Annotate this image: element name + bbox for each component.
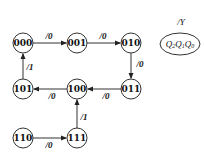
state-000: 000 — [13, 33, 33, 53]
transition-001-010: /0 — [87, 31, 120, 43]
transition-label: /1 — [79, 112, 87, 122]
transition-110-111: /0 — [33, 138, 66, 150]
transition-111-100: /1 — [77, 100, 88, 128]
transition-label: /0 — [98, 31, 107, 41]
legend-state-vars: Q2Q1Q0 — [166, 39, 195, 49]
state-011: 011 — [121, 79, 141, 99]
state-010: 010 — [121, 33, 141, 53]
transition-101-000: /1 — [23, 54, 34, 79]
state-101: 101 — [13, 79, 33, 99]
state-110: 110 — [13, 128, 33, 148]
transition-label: /1 — [25, 62, 33, 72]
state-label: 101 — [14, 84, 33, 94]
transition-011-100: /0 — [88, 89, 121, 101]
legend-output-label: /Y — [176, 17, 186, 27]
state-label: 011 — [122, 84, 141, 94]
state-111: 111 — [67, 128, 87, 148]
state-label: 010 — [122, 38, 141, 48]
transition-000-001: /0 — [33, 31, 66, 43]
state-label: 001 — [68, 38, 87, 48]
legend: /Y Q2Q1Q0 — [160, 17, 200, 55]
state-100: 100 — [67, 79, 87, 99]
transition-label: /0 — [44, 140, 53, 150]
transition-label: /0 — [101, 91, 110, 101]
transition-label: /0 — [135, 59, 144, 69]
state-diagram: /0 /0 /0 /0 /0 /1 /0 /1 000 001 010 — [0, 0, 204, 156]
transition-010-011: /0 — [131, 53, 144, 78]
transition-label: /0 — [44, 31, 53, 41]
transition-label: /0 — [47, 91, 56, 101]
transition-100-101: /0 — [34, 89, 67, 101]
state-label: 110 — [14, 133, 33, 143]
state-001: 001 — [67, 33, 87, 53]
state-label: 100 — [68, 84, 87, 94]
state-label: 000 — [14, 38, 33, 48]
state-label: 111 — [68, 133, 87, 143]
